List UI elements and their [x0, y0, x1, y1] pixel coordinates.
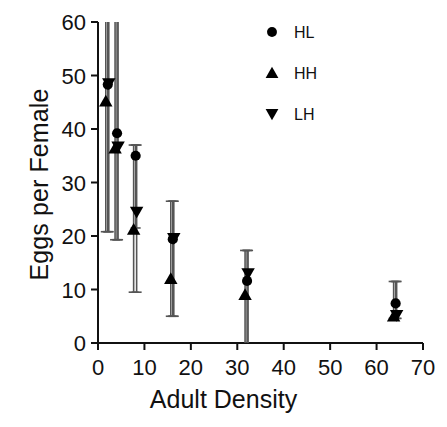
data-point-hh	[164, 272, 177, 284]
legend-label-lh: LH	[294, 106, 314, 123]
y-tick-label: 60	[62, 10, 86, 35]
chart-figure: Eggs per Female Adult Density 0102030405…	[0, 0, 447, 427]
data-point-hl	[391, 298, 401, 308]
legend-marker-hh	[266, 67, 279, 78]
legend-group: HLHHLH	[266, 24, 318, 123]
x-tick-label: 40	[271, 355, 295, 380]
legend-label-hh: HH	[294, 65, 317, 82]
legend-marker-hl	[267, 27, 277, 37]
x-tick-label: 10	[132, 355, 156, 380]
x-tick-label: 20	[179, 355, 203, 380]
data-point-hl	[112, 128, 122, 138]
x-tick-label: 60	[364, 355, 388, 380]
data-point-hh	[99, 95, 112, 107]
x-tick-label: 70	[411, 355, 435, 380]
y-tick-label: 10	[62, 278, 86, 303]
plot-area: 0102030405060010203040506070 HLHHLH	[0, 0, 447, 427]
y-tick-label: 30	[62, 171, 86, 196]
x-tick-label: 30	[225, 355, 249, 380]
data-points-group	[99, 78, 403, 321]
y-tick-label: 50	[62, 64, 86, 89]
data-point-lh	[130, 207, 143, 219]
y-tick-label: 0	[74, 331, 86, 356]
error-bars-group	[101, 22, 402, 343]
data-point-hl	[131, 151, 141, 161]
data-point-hh	[238, 288, 251, 300]
x-tick-label: 0	[92, 355, 104, 380]
axis-lines	[98, 22, 423, 343]
y-tick-label: 40	[62, 117, 86, 142]
y-tick-label: 20	[62, 224, 86, 249]
legend-label-hl: HL	[294, 24, 315, 41]
axes-group	[91, 22, 423, 350]
x-tick-label: 50	[318, 355, 342, 380]
legend-marker-lh	[266, 109, 279, 120]
data-point-hh	[127, 223, 140, 235]
